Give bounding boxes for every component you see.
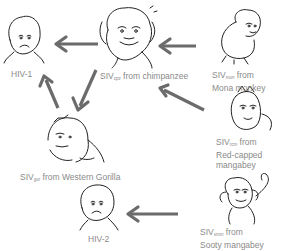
- gorilla-icon: [48, 115, 104, 162]
- sooty-mangabey-icon: [220, 173, 268, 224]
- siv-smm-label: SIVsmm fromSooty mangabey: [200, 227, 264, 250]
- siv-gor-label: SIVgor from Western Gorilla: [20, 172, 120, 185]
- hiv1-label: HIV-1: [11, 69, 32, 79]
- hiv2-face-icon: [80, 185, 118, 230]
- arrow-cpz-to-gor: [73, 70, 96, 110]
- arrow-rcm-to-cpz: [160, 85, 204, 110]
- chimpanzee-icon: [100, 6, 157, 68]
- siv-cpz-label: SIVcpz from chimpanzee: [100, 71, 188, 84]
- siv-mon-label: SIVmon fromMona monkey: [212, 70, 265, 93]
- hiv1-face-icon: [4, 16, 44, 63]
- arrow-gor-to-hiv1: [40, 76, 58, 108]
- arrow-smm-to-hiv2: [128, 207, 178, 221]
- diagram-canvas: [0, 0, 282, 251]
- siv-rcm-label: SIVrcm fromRed-cappedmangabey: [216, 137, 262, 170]
- hiv2-label: HIV-2: [88, 234, 109, 244]
- arrow-cpz-to-hiv1: [56, 37, 98, 51]
- arrow-mon-to-cpz: [160, 39, 196, 53]
- mona-monkey-icon: [222, 10, 261, 64]
